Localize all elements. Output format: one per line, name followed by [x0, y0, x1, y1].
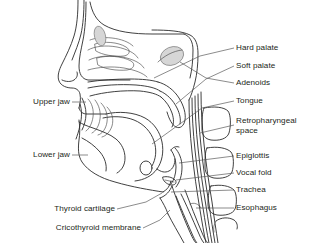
- hard-palate-structure: [88, 79, 161, 97]
- leader-adenoids: [180, 62, 234, 83]
- superior-turbinate-shade: [92, 25, 108, 47]
- nasal-cavity: [79, 2, 184, 80]
- larynx: [160, 177, 204, 243]
- epiglottis-structure: [171, 147, 182, 187]
- leader-thyroid-cartilage: [117, 193, 162, 209]
- label-cricothyroid-membrane: Cricothyroid membrane: [4, 223, 141, 233]
- label-tongue: Tongue: [236, 96, 263, 106]
- leader-cricothyroid-membrane: [143, 210, 170, 228]
- teeth: [76, 98, 113, 139]
- label-hard-palate: Hard palate: [236, 43, 278, 53]
- skull-base: [152, 30, 198, 100]
- label-vocal-fold: Vocal fold: [236, 168, 272, 178]
- facial-profile-outline: [58, 0, 163, 192]
- adenoid-pad: [158, 43, 187, 69]
- leader-trachea: [171, 190, 234, 192]
- leader-soft-palate: [176, 66, 234, 104]
- soft-palate-structure: [158, 82, 185, 128]
- label-adenoids: Adenoids: [236, 78, 270, 88]
- mandible: [79, 122, 152, 175]
- anatomy-figure: Hard palate Soft palate Adenoids Tongue …: [0, 0, 313, 243]
- tongue-structure: [103, 112, 175, 181]
- hyoid-bone: [140, 161, 152, 175]
- adenoids-shade: [158, 43, 187, 69]
- label-esophagus: Esophagus: [236, 203, 277, 213]
- label-soft-palate: Soft palate: [236, 61, 275, 71]
- label-retropharyngeal-space: Retropharyngeal space: [236, 116, 310, 135]
- label-epiglottis: Epiglottis: [236, 151, 269, 161]
- label-trachea: Trachea: [236, 185, 266, 195]
- label-upper-jaw: Upper jaw: [4, 97, 70, 107]
- label-thyroid-cartilage: Thyroid cartilage: [14, 204, 115, 214]
- label-lower-jaw: Lower jaw: [4, 150, 70, 160]
